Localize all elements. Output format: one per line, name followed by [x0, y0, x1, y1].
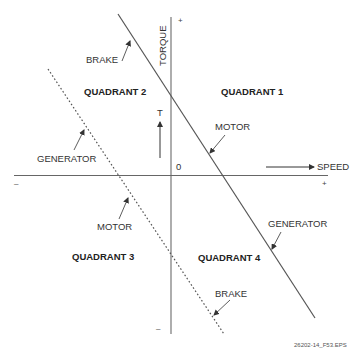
vertical-negative-sign: – [156, 324, 161, 333]
quadrant-1-label: QUADRANT 1 [221, 86, 284, 97]
brake-label-upper: BRAKE [86, 54, 118, 65]
vertical-positive-sign: + [178, 16, 183, 25]
motor-label-lower: MOTOR [97, 221, 132, 232]
torque-symbol: T [157, 107, 163, 118]
origin-label: 0 [176, 161, 181, 172]
solid-characteristic-line [118, 14, 315, 318]
motor-upper-pointer-icon [210, 135, 225, 153]
motor-lower-pointer-icon [119, 198, 128, 219]
speed-axis-label: SPEED [317, 161, 349, 172]
quadrant-4-label: QUADRANT 4 [198, 252, 261, 263]
motor-label-upper: MOTOR [215, 121, 250, 132]
four-quadrant-diagram: TORQUE + – – + 0 T SPEED QUADRANT 1 QUAD… [0, 0, 358, 354]
brake-lower-pointer-icon [214, 300, 230, 315]
horizontal-positive-sign: + [322, 179, 327, 188]
generator-right-pointer-icon [272, 232, 281, 249]
generator-label-left: GENERATOR [37, 153, 96, 164]
torque-axis-label: TORQUE [157, 26, 168, 66]
horizontal-negative-sign: – [14, 179, 19, 188]
generator-left-pointer-icon [74, 130, 84, 150]
generator-label-right: GENERATOR [268, 218, 327, 229]
dashed-characteristic-line [48, 69, 224, 334]
quadrant-3-label: QUADRANT 3 [72, 251, 134, 262]
figure-caption: 26202-14_F53.EPS [294, 342, 347, 348]
quadrant-2-label: QUADRANT 2 [84, 86, 146, 97]
brake-upper-pointer-icon [122, 41, 130, 61]
brake-label-lower: BRAKE [215, 288, 247, 299]
